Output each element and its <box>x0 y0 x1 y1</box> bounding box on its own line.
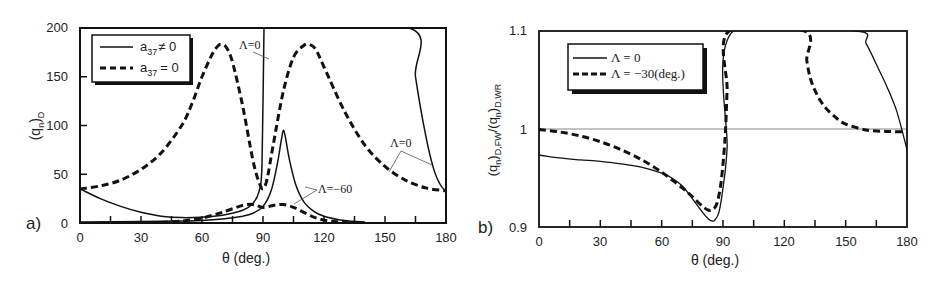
chart-b-xtick-label: 180 <box>896 234 918 249</box>
chart-a-ytick-label: 150 <box>46 69 68 84</box>
annotation-lambda0-right: Λ=0 <box>390 136 411 150</box>
chart-a-xtick-label: 180 <box>435 230 457 245</box>
chart-a: 0 50 100 150 200 0 30 60 90 120 150 180 … <box>26 18 457 266</box>
chart-b-xtick-label: 30 <box>593 234 607 249</box>
ylabel-sub-d: D <box>36 111 46 118</box>
chart-b-x-axis-label: θ (deg.) <box>691 252 739 268</box>
chart-a-xtick-label: 90 <box>256 230 270 245</box>
chart-a-y-ticks <box>80 77 87 175</box>
chart-b-x-ticks <box>570 220 877 227</box>
chart-b-xtick-label: 0 <box>535 234 542 249</box>
chart-a-xtick-label: 150 <box>374 230 396 245</box>
chart-b-ytick-label: 1.1 <box>509 23 527 38</box>
chart-a-xtick-label: 0 <box>76 230 83 245</box>
ylabel-base: (q <box>27 128 43 140</box>
annotation-lambda-60: Λ=−60 <box>318 182 352 196</box>
chart-a-ytick-label: 100 <box>46 118 68 133</box>
legend-dashed-label: Λ = −30(deg.) <box>611 66 685 81</box>
chart-b-xtick-label: 150 <box>835 234 857 249</box>
svg-text:(qn)D: (qn)D <box>27 111 46 140</box>
chart-b-xtick-label: 90 <box>716 234 730 249</box>
chart-b-xtick-label: 120 <box>773 234 795 249</box>
chart-b: 0.9 1 1.1 0 30 60 90 120 150 180 θ (deg.… <box>478 22 918 268</box>
chart-a-xtick-label: 30 <box>134 230 148 245</box>
chart-b-xtick-label: 60 <box>655 234 669 249</box>
legend-solid-label: Λ = 0 <box>611 50 640 65</box>
chart-a-legend: a37≠ 0 a37= 0 <box>92 35 193 85</box>
chart-a-xtick-label: 60 <box>195 230 209 245</box>
svg-text:(qn)D,FW/(qn)D,WR: (qn)D,FW/(qn)D,WR <box>485 83 503 176</box>
figure: 0 50 100 150 200 0 30 60 90 120 150 180 … <box>0 0 930 283</box>
chart-b-ytick-label: 1 <box>520 122 527 137</box>
chart-a-ytick-label: 200 <box>46 20 68 35</box>
chart-a-ytick-label: 0 <box>61 216 68 231</box>
chart-a-xtick-label: 120 <box>313 230 335 245</box>
chart-b-legend: Λ = 0 Λ = −30(deg.) <box>568 44 707 94</box>
series-a37-nonzero-lambda-60 <box>80 130 365 222</box>
chart-a-ytick-label: 50 <box>54 167 68 182</box>
panel-label-b: b) <box>478 218 493 237</box>
chart-a-y-axis-label: (qn)D <box>27 111 46 140</box>
annotation-lambda0-top: Λ=0 <box>239 38 260 52</box>
chart-b-y-axis-label: (qn)D,FW/(qn)D,WR <box>485 83 503 176</box>
chart-b-ytick-label: 0.9 <box>509 220 527 235</box>
panel-label-a: a) <box>26 214 41 233</box>
chart-a-x-axis-label: θ (deg.) <box>222 250 270 266</box>
